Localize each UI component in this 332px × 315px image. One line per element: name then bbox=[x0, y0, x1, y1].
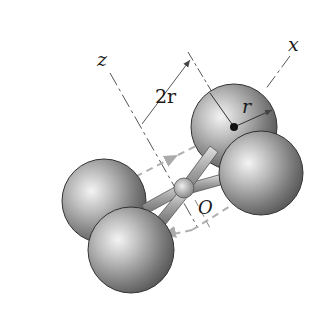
center-dot bbox=[230, 123, 238, 131]
diagram-canvas: z x 2r r O bbox=[0, 0, 332, 315]
hub-joint bbox=[174, 178, 194, 198]
molecule-diagram: z x 2r r O bbox=[0, 0, 332, 315]
origin-label: O bbox=[198, 197, 213, 218]
z-axis-label: z bbox=[96, 48, 108, 70]
x-axis-label: x bbox=[288, 33, 299, 55]
sphere-right bbox=[219, 131, 303, 215]
sphere-bottom bbox=[88, 207, 174, 293]
spacing-label: 2r bbox=[155, 85, 177, 107]
